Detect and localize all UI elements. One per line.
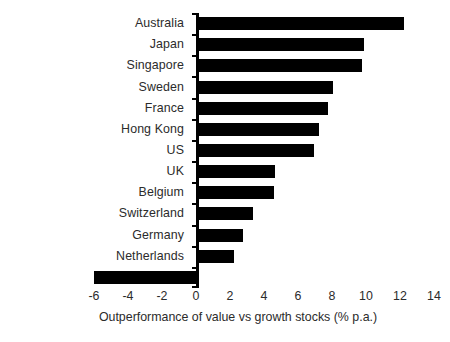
category-tick <box>192 55 197 57</box>
category-tick <box>192 225 197 227</box>
category-label: Sweden <box>0 81 184 94</box>
category-tick <box>192 34 197 36</box>
category-tick <box>192 140 197 142</box>
category-tick <box>192 76 197 78</box>
category-label: Hong Kong <box>0 123 184 136</box>
category-label: France <box>0 102 184 115</box>
category-tick <box>192 161 197 163</box>
x-axis-title-text: Outperformance of value vs growth stocks… <box>99 310 377 324</box>
bar <box>197 123 319 136</box>
bar <box>197 17 404 30</box>
bar <box>197 250 234 263</box>
category-tick <box>192 267 197 269</box>
category-label: Switzerland <box>0 207 184 220</box>
category-label: Australia <box>0 17 184 30</box>
bar <box>197 38 364 51</box>
bar <box>197 59 362 72</box>
bar <box>197 165 275 178</box>
bar <box>197 144 314 157</box>
value-axis: -6-4-202468101214 <box>0 288 450 308</box>
category-tick <box>192 203 197 205</box>
category-tick <box>192 182 197 184</box>
bar <box>94 271 196 284</box>
bar <box>197 207 253 220</box>
bar <box>197 81 333 94</box>
category-label: Netherlands <box>0 250 184 263</box>
x-axis-title: Outperformance of value vs growth stocks… <box>0 310 450 324</box>
bar <box>197 186 274 199</box>
category-label: Germany <box>0 229 184 242</box>
category-label: UK <box>0 165 184 178</box>
bar <box>197 102 328 115</box>
category-tick <box>192 98 197 100</box>
plot-area <box>196 13 442 288</box>
category-label: Belgium <box>0 186 184 199</box>
bar-chart: AustraliaJapanSingaporeSwedenFranceHong … <box>0 0 450 342</box>
category-label: US <box>0 144 184 157</box>
category-label: Singapore <box>0 59 184 72</box>
category-label: Japan <box>0 38 184 51</box>
category-tick <box>192 119 197 121</box>
bar <box>197 229 243 242</box>
x-tick-label: 14 <box>414 288 450 304</box>
category-axis: AustraliaJapanSingaporeSwedenFranceHong … <box>0 13 184 288</box>
category-tick <box>192 246 197 248</box>
category-tick <box>192 13 197 15</box>
